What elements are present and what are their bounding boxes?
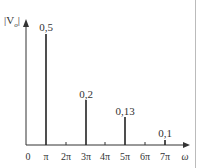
x-tick-label: π	[43, 152, 48, 162]
x-tick-label: 3π	[81, 152, 91, 162]
spectrum-plot	[0, 0, 203, 168]
y-axis-arrow-icon	[23, 19, 29, 27]
value-label: 0,13	[115, 106, 134, 117]
x-tick-label: 4π	[100, 152, 110, 162]
x-tick-label: 5π	[120, 152, 130, 162]
value-label: 0,5	[39, 22, 53, 33]
x-tick-origin: 0	[26, 152, 31, 162]
x-tick-label: 6π	[140, 152, 150, 162]
x-axis-label: ω	[181, 152, 188, 162]
bars	[46, 34, 165, 145]
value-label: 0,1	[158, 128, 172, 139]
x-tick-label: 7π	[160, 152, 170, 162]
y-axis-label: |Vo|	[4, 15, 20, 31]
value-label: 0,2	[79, 89, 93, 100]
x-axis-arrow-icon	[183, 142, 190, 148]
x-tick-label: 2π	[61, 152, 71, 162]
right-border	[195, 0, 196, 168]
